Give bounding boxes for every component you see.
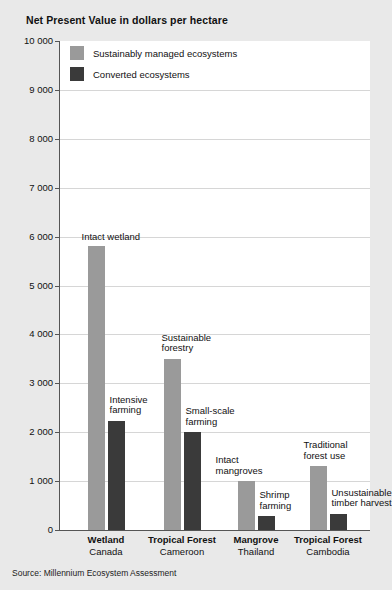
- plot-area: Intact wetlandIntensive farmingSustainab…: [60, 41, 370, 530]
- y-tick: [55, 139, 60, 140]
- y-tick-label: 0: [1, 524, 53, 535]
- y-tick: [55, 90, 60, 91]
- y-tick: [55, 237, 60, 238]
- y-tick-label: 3 000: [1, 377, 53, 388]
- y-axis-labels: 10 0009 0008 0007 0006 0005 0004 0003 00…: [0, 41, 53, 530]
- y-tick-label: 1 000: [1, 475, 53, 486]
- y-tick: [55, 383, 60, 384]
- y-tick-label: 8 000: [1, 133, 53, 144]
- x-category-sub: Cambodia: [278, 546, 378, 558]
- bar: [108, 421, 125, 530]
- y-tick: [55, 481, 60, 482]
- y-tick-label: 7 000: [1, 182, 53, 193]
- y-tick-label: 10 000: [1, 35, 53, 46]
- y-tick-label: 9 000: [1, 84, 53, 95]
- y-tick: [55, 286, 60, 287]
- y-tick: [55, 530, 60, 531]
- x-category-name: Tropical Forest: [278, 534, 378, 546]
- legend-label-sustainable: Sustainably managed ecosystems: [93, 48, 237, 59]
- gridline: [60, 383, 370, 384]
- y-tick: [55, 432, 60, 433]
- page-title: Net Present Value in dollars per hectare: [26, 14, 228, 26]
- gridline: [60, 90, 370, 91]
- x-axis-categories: WetlandCanadaTropical ForestCameroonMang…: [60, 534, 370, 564]
- x-category: Tropical ForestCambodia: [278, 534, 378, 558]
- bar: [164, 359, 181, 530]
- bar: [88, 246, 105, 530]
- y-tick: [55, 334, 60, 335]
- bar: [310, 466, 327, 530]
- bar-label: Shrimp farming: [260, 490, 292, 511]
- bar: [238, 481, 255, 530]
- y-tick-label: 6 000: [1, 231, 53, 242]
- y-tick: [55, 188, 60, 189]
- legend: Sustainably managed ecosystems Converted…: [70, 46, 237, 88]
- gridline: [60, 139, 370, 140]
- source-note: Source: Millennium Ecosystem Assessment: [12, 568, 176, 578]
- bar-label: Traditional forest use: [304, 440, 348, 461]
- gridline: [60, 432, 370, 433]
- x-axis-line: [59, 530, 370, 531]
- legend-item-converted: Converted ecosystems: [70, 67, 237, 81]
- bar-label: Intensive farming: [110, 395, 148, 416]
- bar: [330, 514, 347, 530]
- y-tick-label: 4 000: [1, 328, 53, 339]
- bar-label: Small-scale farming: [186, 406, 235, 427]
- gridline: [60, 334, 370, 335]
- bar-label: Sustainable forestry: [162, 333, 212, 354]
- y-tick-label: 5 000: [1, 280, 53, 291]
- bar: [258, 516, 275, 530]
- gridline: [60, 286, 370, 287]
- bar-label: Intact mangroves: [216, 455, 263, 476]
- bar: [184, 432, 201, 530]
- legend-label-converted: Converted ecosystems: [93, 69, 190, 80]
- gridline: [60, 188, 370, 189]
- legend-swatch-sustainable: [70, 46, 84, 60]
- y-tick: [55, 41, 60, 42]
- legend-item-sustainable: Sustainably managed ecosystems: [70, 46, 237, 60]
- bar-label: Intact wetland: [82, 232, 141, 243]
- legend-swatch-converted: [70, 67, 84, 81]
- bar-label: Unsustainable timber harvest: [332, 488, 392, 509]
- y-tick-label: 2 000: [1, 426, 53, 437]
